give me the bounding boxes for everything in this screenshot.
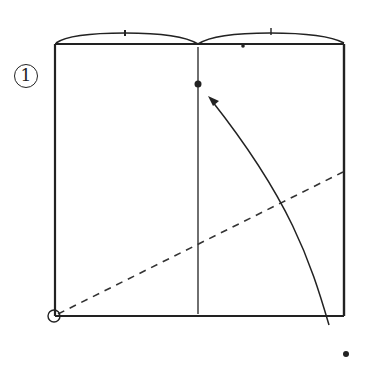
folding-diagram bbox=[0, 0, 371, 371]
arrow-head-icon bbox=[208, 96, 219, 106]
target-point-dot bbox=[195, 81, 202, 88]
corner-dot bbox=[343, 351, 349, 357]
fold-arrow bbox=[212, 101, 329, 325]
top-left-arc bbox=[56, 33, 198, 44]
